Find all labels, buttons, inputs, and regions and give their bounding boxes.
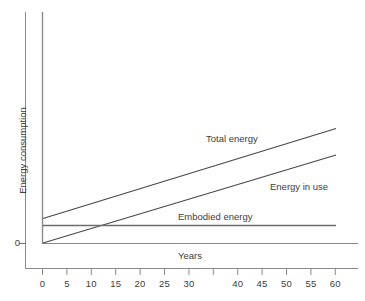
series-line-total-energy — [43, 129, 336, 219]
x-tick-label-15: 15 — [103, 278, 129, 289]
x-tick-label-20: 20 — [127, 278, 153, 289]
series-line-energy-in-use — [43, 155, 336, 243]
series-label-total-energy: Total energy — [206, 133, 258, 144]
x-tick-label-40: 40 — [225, 278, 251, 289]
x-tick-label-60: 60 — [322, 278, 348, 289]
x-tick-label-55: 55 — [298, 278, 324, 289]
x-tick-label-30: 30 — [176, 278, 202, 289]
x-axis-title: Years — [155, 250, 225, 261]
series-label-embodied-energy: Embodied energy — [178, 211, 252, 222]
x-tick-label-10: 10 — [78, 278, 104, 289]
x-tick-label-45: 45 — [249, 278, 275, 289]
series-label-energy-in-use: Energy in use — [270, 181, 328, 192]
x-tick-label-50: 50 — [274, 278, 300, 289]
y-axis-zero-label: 0 — [8, 237, 20, 248]
y-axis-title: Energy consumption — [17, 98, 28, 204]
x-tick-label-5: 5 — [54, 278, 80, 289]
x-axis-ticks — [43, 268, 336, 275]
x-tick-label-0: 0 — [30, 278, 56, 289]
chart-figure: Energy consumption 0 Years 0 5 10 15 20 … — [0, 0, 365, 301]
x-tick-label-25: 25 — [152, 278, 178, 289]
